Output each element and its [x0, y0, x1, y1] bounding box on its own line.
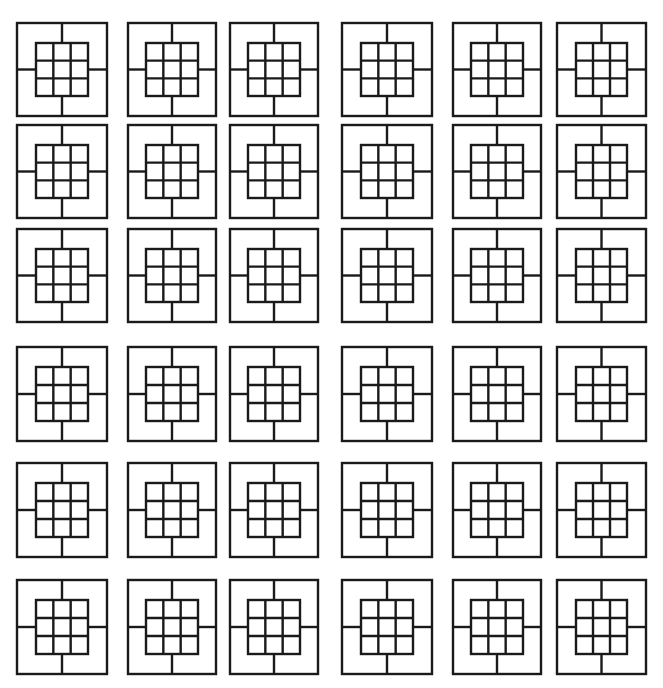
pattern-tile [342, 580, 432, 674]
inner-grid-frame [576, 43, 627, 96]
inner-grid-frame [576, 600, 627, 654]
pattern-tile [342, 125, 432, 218]
pattern-tile [453, 580, 541, 674]
pattern-tile [557, 463, 646, 557]
inner-grid-frame [471, 367, 523, 421]
pattern-tile [128, 463, 216, 557]
pattern-tile [128, 229, 216, 322]
inner-grid-frame [471, 43, 523, 96]
inner-grid-frame [248, 43, 300, 96]
tile-motif-graphic [17, 125, 107, 218]
tile-motif-graphic [342, 23, 432, 116]
inner-grid-frame [361, 600, 413, 654]
tile-motif-graphic [342, 580, 432, 674]
inner-grid-frame [471, 145, 523, 198]
inner-grid-frame [248, 367, 300, 421]
pattern-tile [128, 125, 216, 218]
pattern-tile [453, 347, 541, 441]
inner-grid-frame [576, 483, 627, 537]
tile-motif-graphic [128, 23, 216, 116]
tile-motif-graphic [557, 229, 646, 322]
tile-motif-graphic [230, 23, 318, 116]
tile-motif-graphic [17, 463, 107, 557]
tile-motif-graphic [557, 23, 646, 116]
tile-motif-graphic [17, 23, 107, 116]
tile-motif-graphic [342, 347, 432, 441]
pattern-tile [230, 463, 318, 557]
pattern-tile [453, 229, 541, 322]
pattern-tile [230, 229, 318, 322]
inner-grid-frame [248, 600, 300, 654]
tile-motif-graphic [453, 229, 541, 322]
inner-grid-frame [146, 43, 198, 96]
pattern-tile [342, 463, 432, 557]
inner-grid-frame [361, 483, 413, 537]
pattern-tile [342, 347, 432, 441]
inner-grid-frame [361, 367, 413, 421]
inner-grid-frame [361, 145, 413, 198]
inner-grid-frame [146, 600, 198, 654]
tile-motif-graphic [557, 125, 646, 218]
pattern-tile [453, 463, 541, 557]
tile-motif-graphic [230, 229, 318, 322]
inner-grid-frame [361, 43, 413, 96]
tile-motif-graphic [128, 347, 216, 441]
inner-grid-frame [471, 249, 523, 302]
inner-grid-frame [36, 367, 88, 421]
tile-motif-graphic [230, 125, 318, 218]
inner-grid-frame [146, 483, 198, 537]
pattern-tile [230, 347, 318, 441]
tile-motif-graphic [453, 347, 541, 441]
pattern-tile [557, 347, 646, 441]
pattern-tile [128, 23, 216, 116]
tile-motif-graphic [453, 580, 541, 674]
tile-motif-graphic [128, 229, 216, 322]
tile-motif-graphic [342, 229, 432, 322]
pattern-tile [230, 580, 318, 674]
pattern-tile [453, 125, 541, 218]
inner-grid-frame [471, 600, 523, 654]
inner-grid-frame [576, 145, 627, 198]
inner-grid-frame [248, 145, 300, 198]
pattern-tile [342, 23, 432, 116]
inner-grid-frame [36, 249, 88, 302]
inner-grid-frame [36, 600, 88, 654]
tile-motif-graphic [342, 463, 432, 557]
pattern-tile [128, 580, 216, 674]
pattern-tile [557, 23, 646, 116]
tile-motif-graphic [230, 347, 318, 441]
tile-motif-graphic [17, 580, 107, 674]
pattern-tile [17, 463, 107, 557]
tile-motif-graphic [128, 580, 216, 674]
pattern-tile [17, 580, 107, 674]
inner-grid-frame [576, 367, 627, 421]
inner-grid-frame [146, 145, 198, 198]
pattern-tile [17, 229, 107, 322]
pattern-tile [230, 125, 318, 218]
tile-motif-graphic [557, 347, 646, 441]
inner-grid-frame [248, 249, 300, 302]
tile-motif-graphic [128, 463, 216, 557]
tile-motif-graphic [453, 23, 541, 116]
tile-motif-graphic [128, 125, 216, 218]
pattern-tile [453, 23, 541, 116]
inner-grid-frame [36, 483, 88, 537]
tile-motif-graphic [557, 463, 646, 557]
tile-motif-graphic [342, 125, 432, 218]
pattern-tile [17, 125, 107, 218]
tile-motif-graphic [557, 580, 646, 674]
inner-grid-frame [576, 249, 627, 302]
pattern-tile [557, 580, 646, 674]
tile-motif-graphic [230, 463, 318, 557]
inner-grid-frame [146, 249, 198, 302]
pattern-tile [17, 23, 107, 116]
tile-motif-graphic [453, 125, 541, 218]
inner-grid-frame [36, 145, 88, 198]
inner-grid-frame [361, 249, 413, 302]
inner-grid-frame [248, 483, 300, 537]
tile-motif-graphic [453, 463, 541, 557]
inner-grid-frame [471, 483, 523, 537]
pattern-tile [128, 347, 216, 441]
pattern-tile [17, 347, 107, 441]
inner-grid-frame [146, 367, 198, 421]
